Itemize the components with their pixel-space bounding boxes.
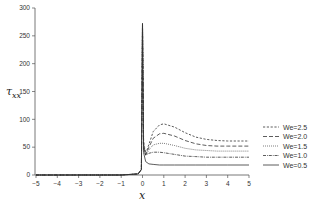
legend-label: We=1.0: [283, 152, 307, 159]
x-tick-label: 3: [205, 180, 209, 187]
y-tick-label: 300: [19, 4, 30, 11]
legend-label: We=2.5: [283, 124, 307, 131]
x-tick-label: 4: [226, 180, 230, 187]
x-tick-label: −1: [117, 180, 125, 187]
y-tick-label: 0: [26, 171, 30, 178]
axes: 050100150200250300−5−4−3−2−1012345: [19, 4, 251, 187]
y-tick-label: 250: [19, 32, 30, 39]
x-tick-label: −4: [54, 180, 62, 187]
x-tick-label: 1: [162, 180, 166, 187]
x-tick-label: 2: [183, 180, 187, 187]
x-tick-label: 5: [247, 180, 251, 187]
y-axis-label-sub: xx: [12, 91, 22, 100]
x-tick-label: −5: [32, 180, 40, 187]
legend: We=2.5We=2.0We=1.5We=1.0We=0.5: [263, 124, 307, 169]
series-line-we-0-5: [36, 24, 249, 175]
legend-label: We=1.5: [283, 143, 307, 150]
x-axis-label: x: [139, 189, 146, 202]
legend-label: We=0.5: [283, 162, 307, 169]
y-tick-label: 100: [19, 116, 30, 123]
y-tick-label: 200: [19, 60, 30, 67]
x-tick-label: 0: [141, 180, 145, 187]
plot-series: [36, 24, 249, 175]
y-tick-label: 50: [23, 143, 31, 150]
line-chart: 050100150200250300−5−4−3−2−1012345 We=2.…: [0, 0, 313, 204]
x-tick-label: −2: [96, 180, 104, 187]
x-tick-label: −3: [75, 180, 83, 187]
legend-label: We=2.0: [283, 133, 307, 140]
